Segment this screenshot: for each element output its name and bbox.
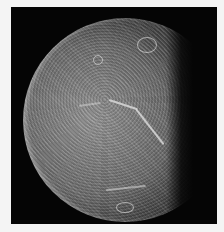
crater [116,202,134,213]
photo-frame [11,7,217,224]
crater [93,55,103,65]
crater [137,37,157,53]
terminator-shadow [166,7,217,224]
